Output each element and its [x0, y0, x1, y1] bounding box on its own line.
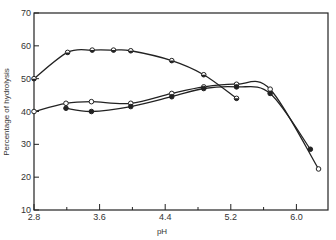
- data-series: [32, 48, 321, 171]
- open-circle-marker: [32, 109, 37, 114]
- y-tick-label: 30: [21, 139, 31, 149]
- y-axis-title: Percentage of hydrolysis: [2, 68, 11, 156]
- filled-circle-marker: [169, 94, 174, 99]
- open-circle-marker: [64, 101, 69, 106]
- plot-frame: [34, 13, 328, 210]
- filled-circle-marker: [64, 106, 69, 111]
- filled-circle-marker: [89, 109, 94, 114]
- x-tick-label: 3.6: [93, 212, 106, 222]
- y-tick-label: 40: [21, 107, 31, 117]
- x-tick-label: 4.4: [159, 212, 172, 222]
- hydrolysis-ph-chart: 10203040506070 2.83.64.45.26.0 pH Percen…: [0, 0, 336, 240]
- x-tick-label: 6.0: [290, 212, 303, 222]
- x-tick-label: 5.2: [225, 212, 238, 222]
- y-tick-label: 50: [21, 74, 31, 84]
- x-axis: 2.83.64.45.26.0: [28, 204, 303, 222]
- open-circle-marker: [316, 167, 321, 172]
- filled-circle-marker: [128, 104, 133, 109]
- x-tick-label: 2.8: [28, 212, 41, 222]
- open-circle-marker: [89, 99, 94, 104]
- x-axis-title: pH: [157, 227, 167, 236]
- filled-circle-marker: [234, 85, 239, 90]
- filled-circle-marker: [201, 86, 206, 91]
- filled-circle-marker: [268, 91, 273, 96]
- y-tick-label: 20: [21, 172, 31, 182]
- filled-circle-marker: [308, 147, 313, 152]
- y-tick-label: 70: [21, 8, 31, 18]
- y-tick-label: 60: [21, 41, 31, 51]
- series-half-filled-circle: [32, 48, 239, 101]
